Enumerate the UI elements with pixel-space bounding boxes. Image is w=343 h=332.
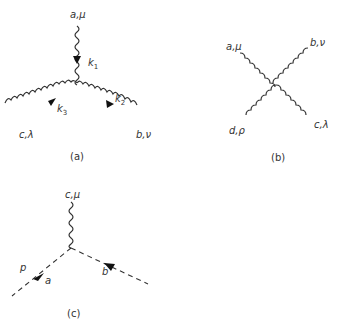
label-c-top: c,μ [65, 190, 80, 200]
feynman-diagrams-canvas [0, 0, 343, 332]
label-b-top-left: a,μ [226, 42, 242, 52]
label-b-top-right: b,ν [310, 38, 325, 48]
gluon-line-b-top-left [240, 53, 275, 87]
arrow-k2-icon [106, 100, 114, 108]
diagram-b-lines [240, 48, 308, 115]
label-a-right: b,ν [136, 130, 151, 140]
label-a-left: c,λ [19, 130, 34, 140]
label-b-bottom-left: d,ρ [229, 126, 245, 136]
label-a-top: a,μ [70, 10, 86, 20]
arrow-k3-icon [48, 98, 56, 106]
gluon-line-c-top [69, 202, 73, 248]
gluon-line-b-bottom-right [276, 85, 306, 115]
label-k2: k2 [115, 94, 125, 107]
gluon-line-b-top-right [273, 48, 308, 83]
label-b-bottom-right: c,λ [314, 120, 329, 130]
label-c-p: p [20, 263, 26, 273]
gluon-line-a-top [75, 26, 79, 85]
diagram-c-lines [12, 202, 148, 296]
label-k3: k3 [57, 104, 67, 117]
gluon-line-b-bottom-left [246, 85, 276, 115]
arrow-k1-icon [73, 56, 81, 64]
label-c-left: a [45, 276, 51, 286]
caption-c: (c) [67, 309, 80, 319]
label-c-right: b [102, 267, 108, 277]
label-k1: k1 [88, 58, 98, 71]
caption-b: (b) [271, 153, 285, 163]
caption-a: (a) [70, 152, 84, 162]
gluon-line-a-left [5, 80, 77, 103]
